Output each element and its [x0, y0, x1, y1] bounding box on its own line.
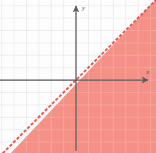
graph-canvas: y x [0, 0, 156, 153]
inequality-graph: y x [0, 0, 156, 153]
